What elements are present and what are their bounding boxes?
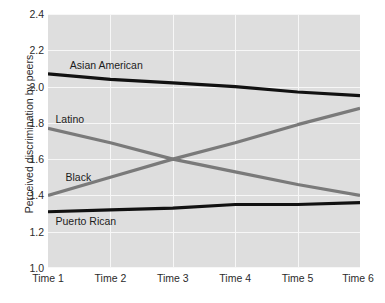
x-tick-label: Time 5 xyxy=(282,272,314,284)
x-tick-label: Time 6 xyxy=(342,272,374,284)
x-tick-label: Time 3 xyxy=(157,272,189,284)
x-tick-label: Time 2 xyxy=(95,272,127,284)
line-chart: Perceived discrimination by peers 1.0 1.… xyxy=(0,0,385,303)
x-tick-label: Time 1 xyxy=(32,272,64,284)
x-tick-label: Time 4 xyxy=(219,272,251,284)
x-axis-tick-labels: Time 1 Time 2 Time 3 Time 4 Time 5 Time … xyxy=(0,0,385,303)
